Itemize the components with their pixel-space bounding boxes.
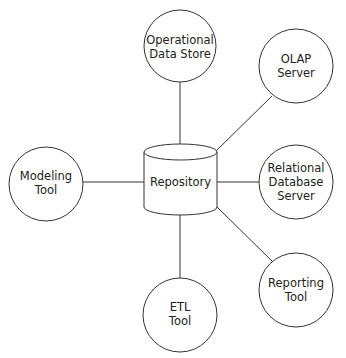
svg-text:OLAP: OLAP bbox=[281, 52, 312, 66]
svg-text:Data Store: Data Store bbox=[149, 47, 211, 61]
node-etl-tool: ETL Tool bbox=[143, 278, 217, 352]
svg-text:Server: Server bbox=[277, 66, 315, 80]
repository-diagram: Repository Operational Data Store OLAP S… bbox=[0, 0, 346, 358]
node-modeling-tool: Modeling Tool bbox=[9, 147, 83, 221]
svg-text:Modeling: Modeling bbox=[20, 169, 72, 183]
cylinder-top bbox=[144, 144, 217, 160]
svg-text:Tool: Tool bbox=[284, 290, 307, 304]
edge-olap-repository bbox=[216, 96, 272, 151]
svg-text:Relational: Relational bbox=[267, 161, 324, 175]
node-reporting-tool: Reporting Tool bbox=[259, 253, 333, 327]
svg-text:Server: Server bbox=[277, 189, 315, 203]
svg-text:ETL: ETL bbox=[170, 300, 191, 314]
svg-text:Tool: Tool bbox=[34, 183, 57, 197]
edge-reporting-repository bbox=[217, 207, 273, 262]
svg-text:Operational: Operational bbox=[146, 33, 213, 47]
repository-node: Repository bbox=[144, 144, 217, 215]
repository-label: Repository bbox=[150, 175, 211, 189]
node-operational-data-store: Operational Data Store bbox=[144, 10, 216, 82]
svg-text:Tool: Tool bbox=[168, 314, 191, 328]
node-relational-database-server: Relational Database Server bbox=[259, 145, 333, 219]
svg-text:Reporting: Reporting bbox=[268, 276, 324, 290]
node-olap-server: OLAP Server bbox=[259, 29, 333, 103]
svg-text:Database: Database bbox=[269, 175, 324, 189]
